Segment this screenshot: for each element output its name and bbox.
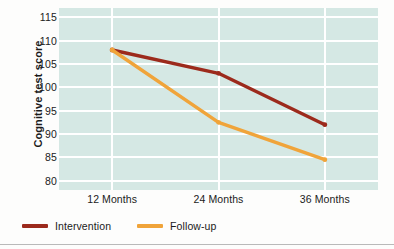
bottom-divider [0, 244, 394, 245]
series-line [112, 50, 325, 125]
y-axis-tick-label: 115 [31, 12, 57, 23]
series-line [112, 50, 325, 160]
y-axis-tick-labels: 11511010510095908580 [31, 0, 57, 249]
data-point-marker [322, 157, 327, 162]
x-axis-tick-label: 12 Months [87, 193, 137, 205]
data-point-marker [216, 71, 221, 76]
legend-label: Intervention [55, 220, 111, 232]
x-axis-tick-label: 24 Months [194, 193, 244, 205]
y-axis-tick-label: 110 [31, 35, 57, 46]
y-axis-tick-label: 100 [31, 82, 57, 93]
legend-entry[interactable]: Follow-up [137, 220, 216, 232]
chart-legend: InterventionFollow-up [22, 220, 217, 232]
y-axis-tick-label: 95 [31, 105, 57, 116]
data-point-marker [110, 48, 115, 53]
data-point-marker [216, 120, 221, 125]
data-point-marker [322, 122, 327, 127]
y-axis-tick-label: 105 [31, 59, 57, 70]
y-axis-tick-label: 90 [31, 129, 57, 140]
y-axis-tick-label: 80 [31, 175, 57, 186]
chart-figure: Cognitive test score 1151101051009590858… [0, 0, 394, 249]
plot-lines [59, 8, 378, 190]
plot-area [59, 8, 378, 190]
legend-entry[interactable]: Intervention [22, 220, 111, 232]
x-axis-tick-labels: 12 Months24 Months36 Months [59, 193, 378, 211]
y-axis-tick-label: 85 [31, 152, 57, 163]
legend-label: Follow-up [170, 220, 216, 232]
x-axis-tick-label: 36 Months [300, 193, 350, 205]
line-swatch-followup [137, 224, 163, 228]
line-swatch-intervention [22, 224, 48, 228]
